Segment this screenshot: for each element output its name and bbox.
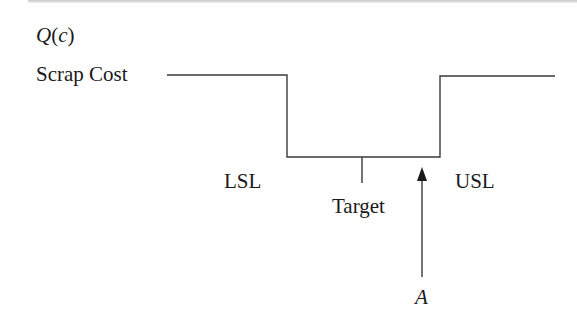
- a-label: A: [415, 287, 428, 308]
- close-paren: ): [68, 23, 75, 47]
- function-argument: c: [58, 23, 67, 47]
- lsl-label: LSL: [224, 171, 261, 192]
- target-label: Target: [332, 196, 385, 217]
- y-axis-label: Q(c): [36, 25, 75, 46]
- step-loss-function-diagram: [0, 0, 577, 314]
- loss-curve: [167, 75, 555, 157]
- scrap-cost-label: Scrap Cost: [36, 64, 128, 85]
- function-symbol: Q: [36, 23, 51, 47]
- arrow-up-icon: [417, 167, 427, 181]
- usl-label: USL: [455, 171, 495, 192]
